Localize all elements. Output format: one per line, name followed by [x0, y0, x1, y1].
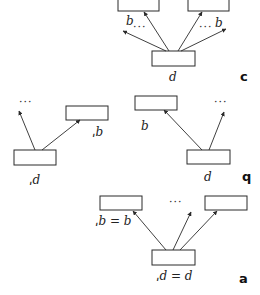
- panel-a-bottom-label: ˌd = d: [156, 269, 193, 283]
- panel-a: ··· ˌb = b ˌd = d a: [95, 196, 248, 286]
- panel-c-ellipsis-left: ···: [133, 21, 147, 34]
- panel-b: ··· ˌb ˌd b ··· d q: [14, 96, 251, 187]
- panel-a-top-left-label: ˌb = b: [95, 214, 131, 228]
- diagram-canvas: b ··· ··· b d c ··· ˌb ˌd b ··· d q ··· …: [0, 0, 260, 295]
- panel-b-left-arrow-box: [42, 120, 80, 150]
- panel-b-left-bottom-box: [14, 150, 56, 165]
- panel-c-bottom-box: [152, 51, 195, 66]
- panel-a-top-left-box: [100, 196, 142, 210]
- panel-a-arrow-top-right: [180, 211, 217, 250]
- panel-a-ellipsis: ···: [169, 196, 183, 209]
- panel-c-arrow-left: [123, 31, 166, 51]
- panel-c-top-left-box: [118, 0, 159, 11]
- panel-c-arrow-top-left: [144, 12, 169, 51]
- panel-c-label: c: [240, 69, 248, 84]
- panel-b-left-top-box: [66, 106, 108, 120]
- panel-c-top-right-box: [188, 0, 229, 11]
- panel-b-right-bottom-label: d: [204, 170, 212, 184]
- panel-b-right-top-label: b: [141, 119, 149, 133]
- panel-c-bottom-label: d: [169, 70, 177, 84]
- panel-a-arrow-ellipsis: [173, 212, 191, 250]
- panel-b-left-arrow-ellipsis: [19, 111, 35, 150]
- panel-c-ellipsis-right: ···: [199, 21, 213, 34]
- panel-b-left-bottom-label: ˌd: [29, 173, 40, 187]
- panel-b-left-top-label: ˌb: [92, 125, 103, 139]
- panel-b-right-top-box: [135, 96, 177, 110]
- panel-b-right-arrow-ellipsis: [209, 112, 224, 150]
- panel-a-label: a: [239, 271, 248, 286]
- panel-c-right-arrow-label: b: [215, 16, 223, 30]
- panel-b-label: q: [242, 169, 251, 184]
- panel-a-top-right-box: [205, 196, 247, 210]
- panel-b-right-ellipsis: ···: [214, 96, 228, 109]
- panel-b-right-arrow-box: [164, 110, 202, 150]
- panel-a-arrow-top-left: [133, 211, 166, 250]
- panel-a-bottom-box: [152, 250, 195, 265]
- panel-b-left-ellipsis: ···: [19, 96, 33, 109]
- panel-c: b ··· ··· b d c: [118, 0, 248, 84]
- panel-b-right-bottom-box: [187, 150, 230, 164]
